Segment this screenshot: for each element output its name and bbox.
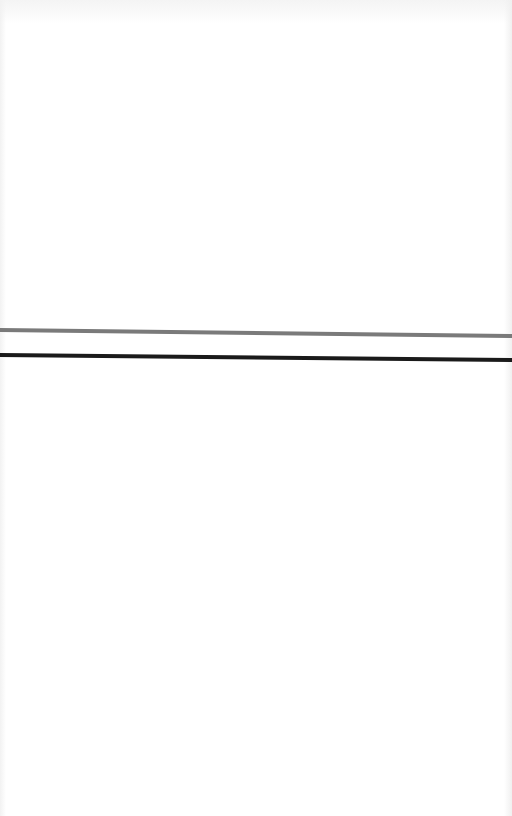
- black-rule: [0, 355, 512, 360]
- horizontal-rules: [0, 0, 512, 816]
- blank-page: [0, 0, 512, 816]
- gray-rule: [0, 330, 512, 336]
